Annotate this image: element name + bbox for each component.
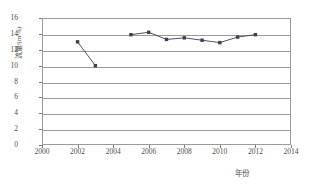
x-tick-mark-2008 [184,145,185,148]
data-point-2010 [218,41,221,44]
data-point-2006 [147,31,150,34]
x-tick-label-2008: 2008 [164,148,204,156]
y-tick-label-0: 0 [0,141,18,149]
x-axis-title: 年份 [235,167,249,178]
x-tick-label-2010: 2010 [200,148,240,156]
x-tick-mark-2002 [78,145,79,148]
data-point-2011 [236,35,239,38]
y-tick-label-10: 10 [0,62,18,70]
data-point-2007 [165,38,168,41]
x-tick-label-2000: 2000 [22,148,62,156]
x-tick-label-2006: 2006 [129,148,169,156]
x-tick-label-2014: 2014 [271,148,311,156]
x-tick-label-2012: 2012 [235,148,275,156]
data-point-2002 [76,40,79,43]
data-point-2009 [200,39,203,42]
data-point-2005 [129,33,132,36]
data-point-2012 [254,33,257,36]
data-point-2003 [94,64,97,67]
data-series-layer [42,18,291,145]
y-tick-label-12: 12 [0,46,18,54]
x-tick-mark-2006 [149,145,150,148]
data-point-2008 [183,36,186,39]
x-tick-mark-2000 [42,145,43,148]
y-tick-label-14: 14 [0,30,18,38]
x-tick-mark-2004 [113,145,114,148]
y-tick-label-4: 4 [0,109,18,117]
x-tick-mark-2010 [220,145,221,148]
x-tick-label-2002: 2002 [58,148,98,156]
x-tick-label-2004: 2004 [93,148,133,156]
x-tick-mark-2014 [291,145,292,148]
y-tick-label-2: 2 [0,125,18,133]
y-tick-label-8: 8 [0,78,18,86]
x-tick-mark-2012 [255,145,256,148]
y-tick-label-6: 6 [0,93,18,101]
series-line-0-segment-0 [78,42,96,66]
y-tick-label-16: 16 [0,14,18,22]
flow-rate-line-chart: 流量/(m³/s) 年份 0246810121416 2000200220042… [0,0,314,188]
